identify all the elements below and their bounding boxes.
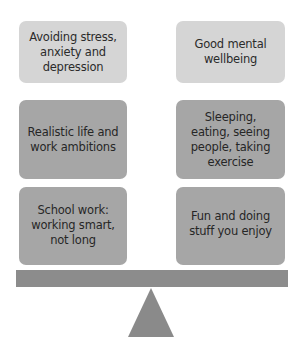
box-realistic-ambitions: Realistic life and work ambitions	[19, 100, 127, 179]
box-avoiding-stress: Avoiding stress, anxiety and depression	[19, 21, 127, 83]
box-label: Good mental wellbeing	[194, 37, 266, 67]
box-label: Fun and doing stuff you enjoy	[189, 209, 272, 239]
box-label: Avoiding stress, anxiety and depression	[29, 30, 116, 75]
scale-beam	[16, 270, 288, 287]
box-school-work: School work: working smart, not long	[19, 187, 127, 265]
box-good-mental-wellbeing: Good mental wellbeing	[176, 21, 285, 83]
scale-fulcrum-triangle	[128, 288, 174, 337]
box-sleeping-eating: Sleeping, eating, seeing people, taking …	[176, 100, 285, 179]
box-label: Realistic life and work ambitions	[28, 125, 119, 155]
box-label: School work: working smart, not long	[31, 203, 115, 248]
box-fun-enjoy: Fun and doing stuff you enjoy	[176, 187, 285, 265]
box-label: Sleeping, eating, seeing people, taking …	[191, 110, 271, 170]
